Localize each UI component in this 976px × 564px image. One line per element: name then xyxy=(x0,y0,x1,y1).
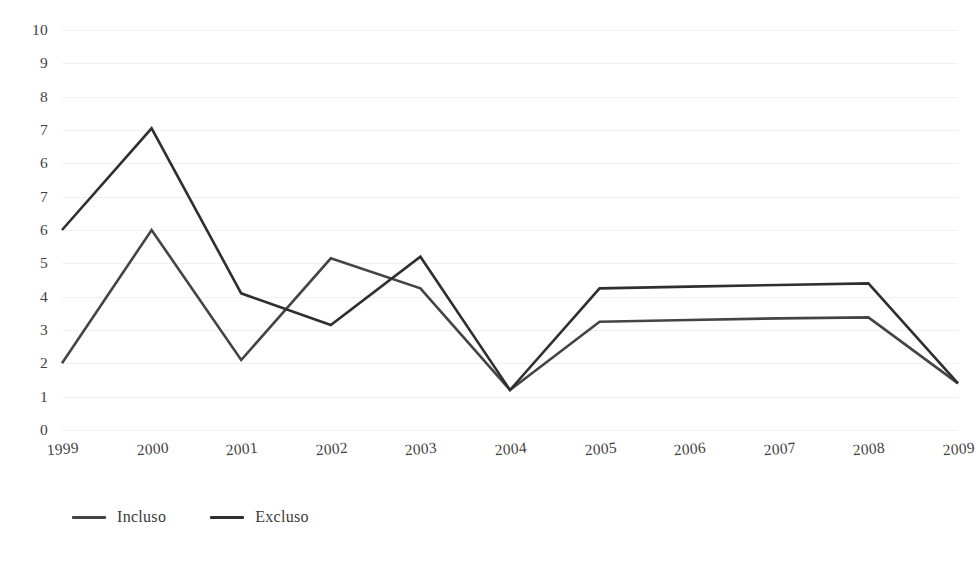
legend-line-icon xyxy=(72,516,106,519)
y-axis-tick-label: 0 xyxy=(40,421,48,439)
x-axis-tick-label: 2005 xyxy=(584,439,618,460)
legend-line-icon xyxy=(210,516,244,519)
x-axis-tick-label: 2008 xyxy=(852,439,886,460)
x-axis-tick-label: 1999 xyxy=(46,439,80,460)
y-axis: 10987676543210 xyxy=(0,30,56,430)
x-axis-tick-label: 2000 xyxy=(136,439,170,460)
x-axis-tick-label: 2009 xyxy=(942,439,976,460)
legend-item-label: Incluso xyxy=(117,508,166,526)
y-axis-tick-label: 1 xyxy=(40,388,48,406)
y-axis-tick-label: 9 xyxy=(40,54,48,72)
legend-item-label: Excluso xyxy=(255,508,309,526)
y-axis-tick-label: 8 xyxy=(40,88,48,106)
x-axis-tick-label: 2002 xyxy=(315,439,349,460)
gridline xyxy=(62,430,958,431)
y-axis-tick-label: 5 xyxy=(40,254,48,272)
y-axis-tick-label: 4 xyxy=(40,288,48,306)
y-axis-tick-label: 3 xyxy=(40,321,48,339)
series-line-incluso xyxy=(62,230,958,390)
y-axis-tick-label: 7 xyxy=(40,188,48,206)
y-axis-tick-label: 6 xyxy=(40,221,48,239)
y-axis-tick-label: 2 xyxy=(40,354,48,372)
x-axis-tick-label: 2006 xyxy=(673,439,707,460)
y-axis-tick-label: 7 xyxy=(40,121,48,139)
plot-area xyxy=(62,30,958,430)
chart-legend: InclusoExcluso xyxy=(72,508,309,526)
x-axis-tick-label: 2003 xyxy=(404,439,438,460)
x-axis: 1999200020012002200320042005200620072008… xyxy=(62,440,958,480)
x-axis-tick-label: 2007 xyxy=(763,439,797,460)
x-axis-tick-label: 2001 xyxy=(225,439,259,460)
series-line-excluso xyxy=(62,128,958,390)
legend-item-incluso[interactable]: Incluso xyxy=(72,508,166,526)
x-axis-tick-label: 2004 xyxy=(494,439,528,460)
y-axis-tick-label: 6 xyxy=(40,154,48,172)
y-axis-tick-label: 10 xyxy=(32,21,48,39)
legend-item-excluso[interactable]: Excluso xyxy=(210,508,309,526)
series-layer xyxy=(62,30,958,430)
